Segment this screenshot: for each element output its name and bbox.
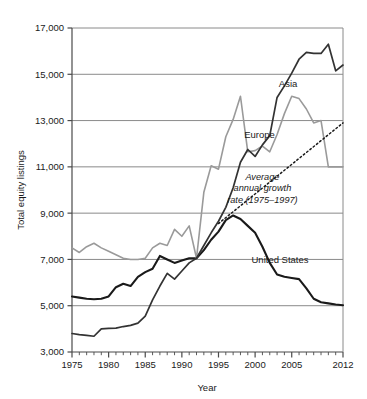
y-tick-label: 3,000 [40,346,64,357]
x-tick-label: 1985 [135,359,156,370]
x-axis-title: Year [197,382,216,393]
series-label-europe: Europe [244,129,275,140]
y-tick-label: 17,000 [35,22,64,33]
y-tick-label: 9,000 [40,208,64,219]
y-tick-label: 11,000 [36,161,64,172]
x-tick-label: 1995 [208,359,229,370]
y-tick-label: 15,000 [35,69,64,80]
x-tick-label: 1980 [98,359,119,370]
x-tick-label: 2012 [332,359,353,370]
x-tick-label: 2005 [281,359,302,370]
equity-listings-line-chart: 3,0005,0007,0009,00011,00013,00015,00017… [0,0,367,399]
y-tick-label: 13,000 [35,115,64,126]
chart-container: 3,0005,0007,0009,00011,00013,00015,00017… [0,0,367,399]
y-axis-title: Total equity listings [15,150,26,230]
trend-annotation-line-2: annual growth [234,183,292,193]
trend-annotation-line-1: Average [244,172,279,182]
series-label-united-states: United States [251,254,308,265]
y-tick-label: 7,000 [40,254,64,265]
x-tick-label: 1990 [171,359,192,370]
series-label-asia: Asia [279,78,298,89]
trend-annotation-line-3: rate (1975–1997) [227,195,298,205]
x-tick-label: 1975 [61,359,82,370]
y-tick-label: 5,000 [40,300,64,311]
x-tick-label: 2000 [245,359,266,370]
chart-background [0,0,367,399]
